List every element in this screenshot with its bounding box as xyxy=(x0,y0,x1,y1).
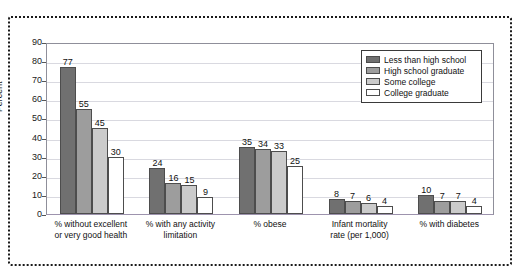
bar: 34 xyxy=(255,149,271,214)
bar-value-label: 4 xyxy=(382,197,387,206)
y-tick-label: 60 xyxy=(18,95,42,104)
legend-item: College graduate xyxy=(366,87,477,98)
legend-item-label: Less than high school xyxy=(384,55,466,65)
bar-value-label: 35 xyxy=(242,138,252,147)
legend-swatch-icon xyxy=(366,56,380,63)
bar-group: 35343325 xyxy=(239,44,303,214)
bar-value-label: 7 xyxy=(350,192,355,201)
y-tick-label: 70 xyxy=(18,76,42,85)
bar: 30 xyxy=(108,157,124,214)
bar-value-label: 7 xyxy=(456,192,461,201)
bar-value-label: 30 xyxy=(111,148,121,157)
bar: 45 xyxy=(92,128,108,214)
bar-value-label: 6 xyxy=(366,194,371,203)
bar-value-label: 34 xyxy=(258,140,268,149)
legend-item: Less than high school xyxy=(366,54,477,65)
legend-swatch-icon xyxy=(366,89,380,96)
bar-value-label: 9 xyxy=(203,188,208,197)
bar: 33 xyxy=(271,151,287,214)
bar-value-label: 15 xyxy=(184,176,194,185)
bar: 35 xyxy=(239,147,255,214)
bar: 7 xyxy=(450,201,466,214)
bar: 16 xyxy=(165,183,181,214)
bar: 9 xyxy=(197,197,213,214)
bar-value-label: 24 xyxy=(152,159,162,168)
bar-value-label: 45 xyxy=(95,119,105,128)
y-tick-label: 50 xyxy=(18,114,42,123)
bar-value-label: 55 xyxy=(79,100,89,109)
bar: 10 xyxy=(418,195,434,214)
x-category-label: % with diabetes xyxy=(391,219,507,230)
bar-group: 77554530 xyxy=(60,44,124,214)
legend-item-label: College graduate xyxy=(384,88,449,98)
y-tick-label: 20 xyxy=(18,172,42,181)
bar-value-label: 16 xyxy=(168,174,178,183)
legend-item: Some college xyxy=(366,76,477,87)
bar-group: 2416159 xyxy=(149,44,213,214)
bar-value-label: 4 xyxy=(472,197,477,206)
y-tick-label: 10 xyxy=(18,191,42,200)
bar: 55 xyxy=(76,109,92,214)
bar: 24 xyxy=(149,168,165,214)
legend-swatch-icon xyxy=(366,78,380,85)
bar-value-label: 8 xyxy=(334,190,339,199)
legend-item-label: Some college xyxy=(384,77,436,87)
bar: 77 xyxy=(60,67,76,214)
y-tick-label: 30 xyxy=(18,153,42,162)
y-tick-label: 80 xyxy=(18,57,42,66)
bar: 15 xyxy=(181,185,197,214)
legend-swatch-icon xyxy=(366,67,380,74)
bar: 4 xyxy=(466,206,482,214)
bar-value-label: 77 xyxy=(63,58,73,67)
bar: 8 xyxy=(329,199,345,214)
figure: Percent 0102030405060708090 775545302416… xyxy=(0,0,524,277)
y-tick-label: 90 xyxy=(18,38,42,47)
bar: 7 xyxy=(345,201,361,214)
bar: 4 xyxy=(377,206,393,214)
bar-value-label: 33 xyxy=(274,142,284,151)
bar: 7 xyxy=(434,201,450,214)
legend-item: High school graduate xyxy=(366,65,477,76)
bar: 25 xyxy=(287,166,303,214)
legend-item-label: High school graduate xyxy=(384,66,464,76)
y-axis-label: Percent xyxy=(0,81,4,112)
y-tick-mark xyxy=(42,215,46,216)
y-tick-label: 40 xyxy=(18,134,42,143)
bar-value-label: 10 xyxy=(421,186,431,195)
legend: Less than high schoolHigh school graduat… xyxy=(361,50,482,103)
y-tick-label: 0 xyxy=(18,210,42,219)
bar: 6 xyxy=(361,203,377,214)
bar-value-label: 7 xyxy=(440,192,445,201)
bar-value-label: 25 xyxy=(290,157,300,166)
